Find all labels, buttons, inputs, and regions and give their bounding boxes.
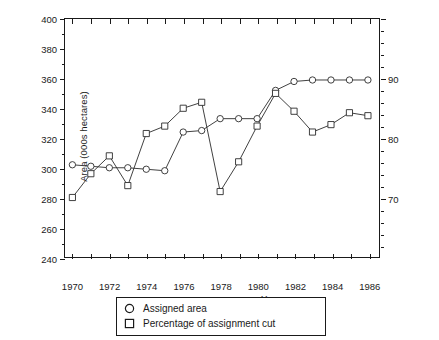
y-tick-right-minor [381,115,384,116]
y-tick-right-minor [381,103,384,104]
chart-legend: Assigned area Percentage of assignment c… [116,297,326,336]
square-marker-icon [309,129,315,135]
square-marker-icon [69,194,75,200]
y-tick-label-left: 320 [41,134,57,145]
square-marker-icon [106,153,112,159]
square-marker-icon [180,105,186,111]
legend-item-percentage-cut: Percentage of assignment cut [124,316,318,331]
circle-marker-icon [180,129,186,135]
square-marker-icon [88,171,94,177]
y-tick-right-minor [381,43,384,44]
circle-marker-icon [217,115,223,121]
y-tick-label-left: 360 [41,74,57,85]
square-marker-icon [365,113,371,119]
y-tick-right-minor [381,175,384,176]
y-tick-label-left: 380 [41,44,57,55]
x-tick-label: 1970 [62,281,83,292]
series-line-2 [72,93,368,197]
x-tick-label: 1974 [136,281,157,292]
circle-marker-icon [125,165,131,171]
y-tick-right-minor [381,151,384,152]
y-tick-label-right: 70 [388,194,399,205]
legend-item-assigned-area: Assigned area [124,301,318,316]
y-tick-label-right: 90 [388,74,399,85]
x-tick-label: 1982 [285,281,306,292]
y-tick-right-minor [381,235,384,236]
square-marker-icon [254,123,260,129]
y-tick-right-minor [381,55,384,56]
y-tick-right-minor [381,127,384,128]
y-tick-right-minor [381,211,384,212]
y-tick-label-left: 300 [41,164,57,175]
x-tick-label: 1972 [99,281,120,292]
y-tick-right [381,199,386,200]
square-marker-icon [162,123,168,129]
circle-marker-icon [235,115,241,121]
chart-figure: Area (000s hectares) [Percentage] Year 2… [0,0,439,340]
y-tick-right [381,79,386,80]
y-tick-label-left: 340 [41,104,57,115]
series-line-1 [72,80,368,171]
y-tick-label-right: 80 [388,134,399,145]
y-tick-right-minor [381,187,384,188]
y-tick-right-minor [381,31,384,32]
square-marker-icon [125,183,131,189]
plot-area: Area (000s hectares) [Percentage] Year 2… [64,18,380,258]
circle-marker-icon [346,77,352,83]
circle-marker-icon [88,163,94,169]
square-marker-icon [143,130,149,136]
circle-marker-icon [291,78,297,84]
square-marker-icon [272,90,278,96]
circle-marker-icon [143,166,149,172]
circle-marker-icon [69,162,75,168]
y-tick-right [381,139,386,140]
x-tick-label: 1986 [359,281,380,292]
x-tick-label: 1976 [173,281,194,292]
square-marker-icon [236,159,242,165]
y-tick-label-left: 260 [41,224,57,235]
series-layer [65,19,379,257]
circle-marker-icon [309,77,315,83]
legend-label: Percentage of assignment cut [143,319,275,329]
legend-label: Assigned area [143,304,207,314]
circle-marker-icon [198,127,204,133]
y-tick-right-minor [381,163,384,164]
circle-marker-icon [106,165,112,171]
x-tick-label: 1980 [248,281,269,292]
y-tick-right-minor [381,91,384,92]
y-tick-right-minor [381,247,384,248]
circle-marker-icon [254,115,260,121]
y-tick-right-minor [381,223,384,224]
x-tick-label: 1984 [322,281,343,292]
x-tick-label: 1978 [211,281,232,292]
square-marker-icon [291,108,297,114]
y-tick-right [381,19,386,20]
circle-marker-icon [365,77,371,83]
y-tick-label-left: 240 [41,254,57,265]
circle-marker-icon [162,168,168,174]
square-marker-icon [346,110,352,116]
circle-marker-icon [328,77,334,83]
square-marker-icon [217,188,223,194]
y-tick-right-minor [381,67,384,68]
y-tick-label-left: 400 [41,14,57,25]
square-marker-icon [199,99,205,105]
y-tick-left [60,259,65,260]
circle-marker-icon [124,303,135,314]
square-marker-icon [328,122,334,128]
square-marker-icon [124,318,135,329]
y-tick-label-left: 280 [41,194,57,205]
